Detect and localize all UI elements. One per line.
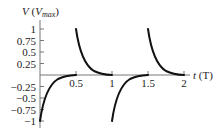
chart: 1 0.75 0.5 0.25 −0.25 −0.5 −0.75 −1 0.5 …: [0, 0, 216, 138]
y-tick-labels: 1 0.75 0.5 0.25 −0.25 −0.5 −0.75 −1: [11, 23, 37, 127]
x-axis-label: t (T): [193, 69, 213, 82]
curve-segment-2: [76, 29, 112, 75]
x-tick-label: 1: [109, 77, 115, 89]
y-tick-label: −1: [24, 115, 36, 127]
y-axis-label: V (Vmax): [22, 5, 59, 19]
curve-segment-4: [148, 29, 184, 75]
x-tick-label: 0.5: [69, 77, 83, 89]
y-tick-label: −0.25: [11, 81, 37, 93]
y-tick-label: 0.5: [22, 46, 36, 58]
y-tick-label: 0.75: [17, 35, 37, 47]
x-tick-label: 2: [181, 77, 187, 89]
x-tick-labels: 0.5 1 1.5 2: [69, 77, 187, 89]
y-tick-label: −0.5: [16, 92, 36, 104]
x-tick-label: 1.5: [141, 77, 155, 89]
y-tick-label: 0.25: [17, 58, 37, 70]
y-tick-label: −0.75: [11, 104, 37, 116]
y-tick-label: 1: [31, 23, 37, 35]
